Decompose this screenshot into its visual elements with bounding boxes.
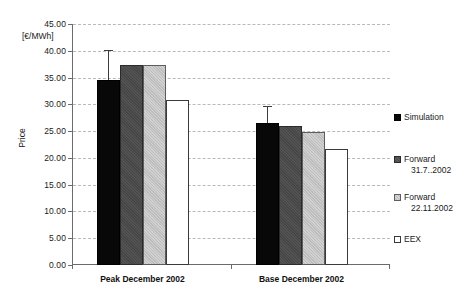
bar [256,123,279,265]
y-axis-tick-label: 15.00 [24,180,66,190]
y-axis-tick-label: 25.00 [24,126,66,136]
legend-label-line2: 22.11.2002 [404,203,453,214]
bar [302,132,325,265]
legend-item[interactable]: Simulation [394,112,444,123]
y-axis-title: Price [17,108,27,168]
x-axis-tick-marks [72,265,390,271]
y-axis-tick-label: 30.00 [24,99,66,109]
legend-swatch-icon [394,156,401,163]
legend-item[interactable]: EEX [394,234,421,245]
error-bar [263,106,272,122]
x-axis-tick-mark [231,265,232,269]
bar [325,149,348,265]
y-axis-tick-label: 45.00 [24,19,66,29]
bar [279,126,302,265]
legend-swatch-icon [394,114,401,121]
error-bar-stem [267,106,268,122]
bars-layer [72,24,390,265]
error-bar-stem [108,50,109,81]
x-axis-tick-mark [72,265,73,269]
legend-label-line2: 31.7..2002 [404,165,451,176]
legend-swatch-icon [394,236,401,243]
x-axis-tick-mark [389,265,390,269]
x-axis-label: Base December 2002 [259,274,344,284]
legend-swatch-icon [394,194,401,201]
legend-item[interactable]: Forward22.11.2002 [394,192,453,213]
bar [120,65,143,265]
bar-chart: 0.005.0010.0015.0020.0025.0030.0035.0040… [0,0,472,301]
y-axis-tick-label: 10.00 [24,206,66,216]
bar [166,100,189,265]
y-axis-tick-label: 0.00 [24,260,66,270]
error-bar [104,50,113,81]
legend-label: Forward22.11.2002 [404,192,453,213]
bar [143,65,166,265]
legend-label: Simulation [404,112,444,123]
error-bar-cap [104,50,113,51]
y-axis-unit-label: [€/MWh] [22,31,54,41]
bar [97,80,120,265]
y-axis-tick-label: 5.00 [24,233,66,243]
y-axis-tick-label: 40.00 [24,46,66,56]
legend-label: EEX [404,234,421,245]
x-axis-label: Peak December 2002 [100,274,185,284]
error-bar-cap [263,106,272,107]
legend-label: Forward31.7..2002 [404,154,451,175]
y-axis-tick-label: 35.00 [24,73,66,83]
y-axis-tick-label: 20.00 [24,153,66,163]
legend-item[interactable]: Forward31.7..2002 [394,154,451,175]
